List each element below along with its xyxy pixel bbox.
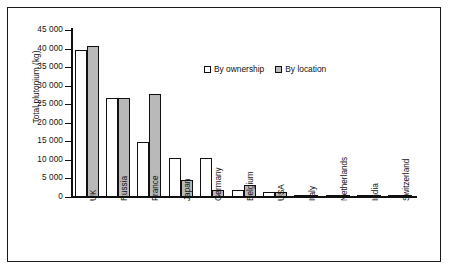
bar-switzerland-ownership	[388, 195, 400, 197]
x-tick-label: Belgium	[247, 171, 255, 201]
legend-swatch-ownership-icon	[204, 66, 211, 73]
x-tick-label: UK	[90, 190, 98, 201]
y-tick-label: 30 000	[17, 82, 63, 90]
x-tick-label: Switzerland	[403, 159, 411, 201]
bar-uk-ownership	[75, 50, 87, 197]
x-tick-label: Italy	[309, 186, 317, 201]
chart-legend: By ownershipBy location	[204, 64, 326, 74]
y-tick-mark	[65, 49, 71, 50]
x-tick-label: USA	[278, 184, 286, 201]
y-axis-tick-labels: 45 00040 00035 00030 00025 00020 00015 0…	[16, 8, 63, 273]
legend-label: By location	[285, 64, 326, 74]
y-tick-mark	[65, 104, 71, 105]
x-tick-label: Russia	[121, 176, 129, 201]
y-tick-mark	[65, 30, 71, 31]
x-tick-label: India	[372, 183, 380, 201]
y-tick-mark	[65, 160, 71, 161]
y-tick-mark	[65, 141, 71, 142]
plot-area	[71, 30, 416, 197]
y-tick-label: 0	[17, 193, 63, 201]
x-tick-label: Netherlands	[341, 157, 349, 201]
legend-swatch-location-icon	[275, 66, 282, 73]
legend-label: By ownership	[214, 64, 264, 74]
bar-uk-location	[87, 46, 99, 197]
x-tick-label: France	[152, 176, 160, 201]
y-tick-label: 15 000	[17, 137, 63, 145]
y-tick-mark	[65, 178, 71, 179]
legend-item-location: By location	[275, 64, 326, 74]
y-tick-mark	[65, 86, 71, 87]
y-tick-label: 35 000	[17, 63, 63, 71]
y-tick-label: 5 000	[17, 174, 63, 182]
legend-item-ownership: By ownership	[204, 64, 264, 74]
bar-italy-ownership	[294, 195, 306, 197]
bar-belgium-ownership	[232, 190, 244, 197]
y-tick-label: 10 000	[17, 156, 63, 164]
y-tick-mark	[65, 197, 71, 198]
bar-japan-ownership	[169, 158, 181, 197]
y-tick-label: 45 000	[17, 26, 63, 34]
x-tick-label: Japan	[184, 179, 192, 201]
y-tick-label: 40 000	[17, 45, 63, 53]
bar-usa-ownership	[263, 192, 275, 197]
y-tick-mark	[65, 67, 71, 68]
y-tick-mark	[65, 123, 71, 124]
bar-netherlands-ownership	[326, 195, 338, 197]
bar-india-ownership	[357, 195, 369, 197]
bar-france-ownership	[137, 142, 149, 197]
y-tick-label: 20 000	[17, 119, 63, 127]
bar-germany-ownership	[200, 158, 212, 197]
x-tick-label: Germany	[215, 167, 223, 201]
chart-frame: Total plutonium (kg) 45 00040 00035 0003…	[7, 7, 441, 262]
bar-russia-ownership	[106, 98, 118, 197]
y-tick-label: 25 000	[17, 100, 63, 108]
